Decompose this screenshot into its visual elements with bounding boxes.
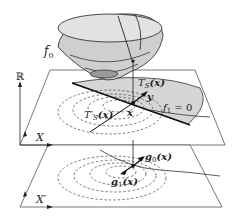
diagram-canvas: f0 ℝ X X′ TS(x) T′S(x) y x f1 = 0 g0(x) …: [0, 0, 238, 222]
label-X: X: [35, 131, 45, 144]
point-x-lower: [131, 164, 135, 168]
label-x: x: [126, 107, 134, 118]
label-X-prime: X′: [35, 193, 47, 206]
label-f0: f0: [43, 44, 54, 60]
label-y: y: [146, 91, 154, 102]
point-x-upper: [131, 101, 135, 105]
plane-X-prime: [20, 145, 222, 207]
label-reals: ℝ: [16, 71, 25, 82]
